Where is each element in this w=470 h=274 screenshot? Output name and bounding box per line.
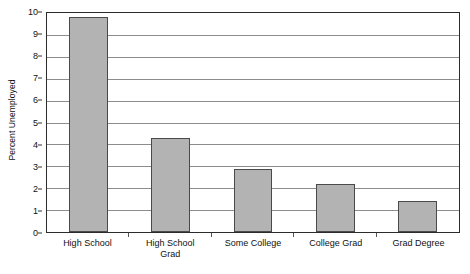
bar[interactable]	[234, 169, 273, 233]
y-axis-title-text: Percent Unemployed	[7, 79, 17, 160]
x-axis-tick-label: College Grad	[294, 238, 377, 272]
plot-area	[46, 12, 460, 233]
y-axis-tick-mark	[38, 78, 42, 79]
x-axis-tick-label-line: Grad	[130, 249, 211, 260]
x-axis-tick-label: High School	[46, 238, 129, 272]
y-axis-title: Percent Unemployed	[0, 0, 24, 240]
bar[interactable]	[316, 184, 355, 232]
y-axis-tick-mark	[38, 144, 42, 145]
x-axis-tick-label-line: High School	[130, 238, 211, 249]
bars-layer	[47, 13, 459, 232]
bar[interactable]	[69, 17, 108, 232]
x-axis-tick-label: High SchoolGrad	[129, 238, 212, 272]
y-axis-tick-mark	[38, 12, 42, 13]
bar-slot	[212, 13, 294, 232]
x-axis-tick-label-line: Grad Degree	[378, 238, 459, 249]
y-axis-tick-mark	[38, 210, 42, 211]
y-axis-tick-label: 10	[28, 8, 38, 17]
bar[interactable]	[398, 201, 437, 232]
y-axis-tick-mark	[38, 188, 42, 189]
y-axis-tick-labels: 012345678910	[22, 12, 42, 233]
bar-chart: Percent Unemployed 012345678910 High Sch…	[0, 0, 470, 274]
x-axis-tick-label-line: College Grad	[295, 238, 376, 249]
x-axis-tick-label: Some College	[212, 238, 295, 272]
y-axis-tick-mark	[38, 34, 42, 35]
bar-slot	[47, 13, 129, 232]
bar-slot	[129, 13, 211, 232]
bar[interactable]	[151, 138, 190, 232]
x-axis-tick-label: Grad Degree	[377, 238, 460, 272]
y-axis-tick-mark	[38, 100, 42, 101]
x-axis-tick-label-line: Some College	[213, 238, 294, 249]
x-axis-tick-labels: High SchoolHigh SchoolGradSome CollegeCo…	[46, 238, 460, 272]
bar-slot	[377, 13, 459, 232]
y-axis-tick-mark	[38, 166, 42, 167]
y-axis-tick-mark	[38, 122, 42, 123]
x-axis-tick-label-line: High School	[47, 238, 128, 249]
y-axis-tick-mark	[38, 56, 42, 57]
y-axis-tick-mark	[38, 233, 42, 234]
bar-slot	[294, 13, 376, 232]
